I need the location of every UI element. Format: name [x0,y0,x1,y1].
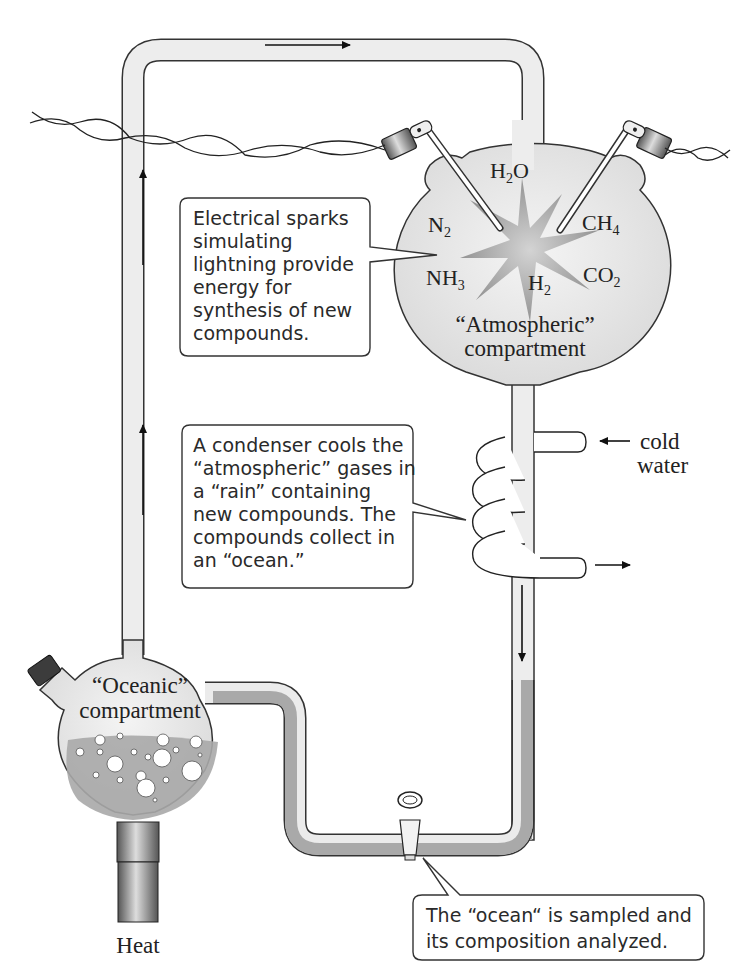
callout-sample-line: its composition analyzed. [426,930,668,952]
callout-sparks-line: compounds. [193,322,309,344]
miller-urey-diagram: H2O N2 CH4 NH3 H2 CO2 “Atmospheric” comp… [0,0,747,976]
callout-condenser-line: new compounds. The [193,503,396,525]
callout-sample: The “ocean“ is sampled and its compositi… [413,858,704,960]
callout-sparks-line: lightning provide [193,253,354,275]
oceanic-label-line2: compartment [79,698,201,723]
callout-condenser-line: A condenser cools the [193,434,403,456]
heat-source [117,822,159,922]
callout-condenser-line: an “ocean.” [193,549,305,571]
atmospheric-label-line2: compartment [464,336,586,361]
callout-condenser-line: compounds collect in [193,526,395,548]
cold-water-line2: water [637,453,688,478]
oceanic-label-line1: “Oceanic” [92,673,188,698]
callout-sample-line: The “ocean“ is sampled and [425,904,692,926]
callout-sparks-line: Electrical sparks [193,207,349,229]
heat-label: Heat [116,933,160,958]
callout-sparks-line: energy for [193,276,292,298]
ocean-return-tube [205,680,527,849]
callout-condenser-line: a “rain” containing [193,480,371,502]
callout-sparks-line: simulating [193,230,292,252]
cold-water-line1: cold [640,429,680,454]
callout-condenser-line: “atmospheric” gases in [193,457,416,479]
atmospheric-label-line1: “Atmospheric” [455,312,594,337]
wire-left [30,112,385,157]
oceanic-flask [27,640,218,820]
callout-sparks-line: synthesis of new [193,299,352,321]
wire-right [665,147,730,160]
callout-condenser: A condenser cools the “atmospheric” gase… [182,425,466,588]
